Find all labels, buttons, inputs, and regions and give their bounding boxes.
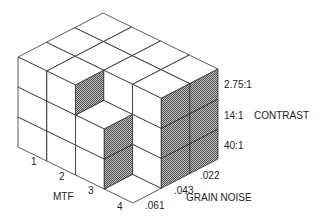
contrast-tick-14: 14:1 xyxy=(224,111,243,121)
grain-noise-axis-title: GRAIN NOISE xyxy=(186,193,252,203)
grain-tick-022: .022 xyxy=(200,171,219,181)
grain-tick-061: .061 xyxy=(145,201,164,211)
mtf-axis-title: MTF xyxy=(53,192,74,202)
cube-stack xyxy=(0,0,320,218)
contrast-tick-40: 40:1 xyxy=(224,141,243,151)
mtf-tick-4: 4 xyxy=(117,202,123,212)
mtf-tick-2: 2 xyxy=(59,172,65,182)
contrast-tick-2-75: 2.75:1 xyxy=(224,80,252,90)
cube-diagram: 1 2 3 4 MTF .061 .043 .022 GRAIN NOISE 2… xyxy=(0,0,320,218)
mtf-tick-3: 3 xyxy=(88,186,94,196)
contrast-axis-title: CONTRAST xyxy=(254,111,309,121)
mtf-tick-1: 1 xyxy=(31,157,37,167)
